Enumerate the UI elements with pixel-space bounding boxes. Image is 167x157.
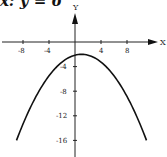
x-axis-arrow-icon — [148, 39, 158, 45]
parabola-chart: XY-8-448-4-8-12-16 — [0, 0, 167, 157]
x-tick-label: -4 — [44, 47, 51, 55]
y-tick-label: -12 — [56, 112, 67, 120]
axes: XY-8-448-4-8-12-16 — [2, 3, 166, 157]
y-tick-label: -8 — [60, 88, 67, 96]
x-tick-label: -8 — [18, 47, 25, 55]
x-axis-label: X — [160, 38, 166, 47]
y-tick-label: -16 — [56, 137, 68, 145]
x-tick-label: 8 — [125, 47, 129, 55]
y-axis-arrow-icon — [72, 13, 78, 24]
parabola-curve — [17, 54, 147, 140]
y-axis-label: Y — [72, 3, 79, 12]
x-tick-label: 4 — [99, 47, 104, 55]
y-tick-label: -4 — [60, 63, 67, 71]
